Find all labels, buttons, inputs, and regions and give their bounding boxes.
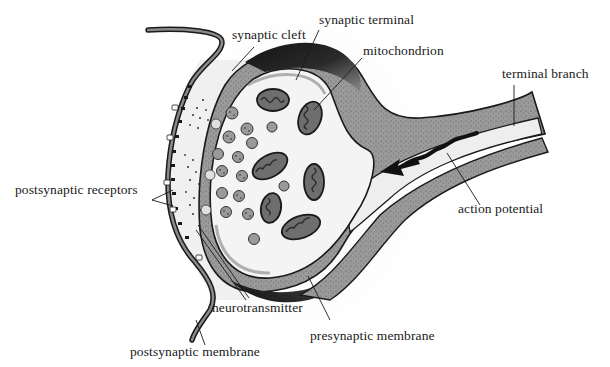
label-neurotransmitter: neurotransmitter bbox=[212, 301, 303, 315]
label-postsynaptic-receptors: postsynaptic receptors bbox=[15, 183, 138, 197]
label-presynaptic-membrane: presynaptic membrane bbox=[310, 329, 435, 343]
label-mitochondrion: mitochondrion bbox=[363, 44, 444, 58]
label-postsynaptic-membrane: postsynaptic membrane bbox=[130, 345, 260, 359]
label-synaptic-terminal: synaptic terminal bbox=[319, 13, 414, 27]
label-terminal-branch: terminal branch bbox=[502, 67, 589, 81]
label-action-potential: action potential bbox=[458, 202, 543, 216]
label-synaptic-cleft: synaptic cleft bbox=[232, 28, 306, 42]
synapse-diagram: synaptic cleft synaptic terminal mitocho… bbox=[0, 0, 610, 367]
